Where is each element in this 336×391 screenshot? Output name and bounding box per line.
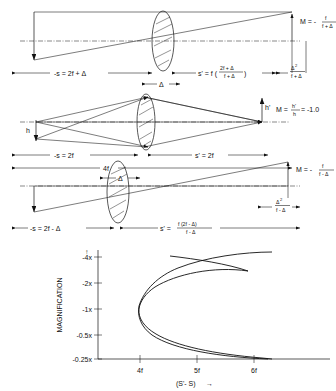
chart-ytick-2: -1x [82, 306, 92, 313]
magnification-chart: -4x -2x -1x -0.5x -0.25x 4f 5f 6f MAGNIF… [56, 249, 330, 389]
ray-lower-out-middle [144, 122, 262, 147]
label-magnification-middle: M = [276, 106, 288, 113]
figure-canvas: -s = 2f + Δ Δ s' = f ( 2f + Δ f + Δ ) Δ … [0, 0, 336, 391]
chart-x-ticks: 4f 5f 6f [137, 355, 257, 374]
label-object-distance-bottom: -s = 2f - Δ [30, 225, 61, 232]
optics-figure: -s = 2f + Δ Δ s' = f ( 2f + Δ f + Δ ) Δ … [0, 0, 336, 391]
chart-curve [139, 256, 272, 359]
label-image-distance-bottom: s' = [160, 225, 171, 232]
label-image-distance-top-tail: ) [244, 70, 246, 78]
chart-xtick-2: 6f [251, 367, 257, 374]
label-magnification-middle-den: h [293, 111, 296, 117]
label-offset-bottom-den: f - Δ [276, 207, 286, 213]
section-middle-diagram: h h' -s = 2f s' = 2f [16, 94, 319, 183]
label-object-height-middle: h [26, 127, 30, 134]
label-total-middle: 4f [103, 165, 109, 172]
chart-ytick-4: -0.25x [73, 356, 93, 363]
label-magnification-bottom: M = - [296, 166, 313, 173]
chart-y-ticks: -4x -2x -1x -0.5x -0.25x [73, 254, 102, 363]
label-image-distance-bottom-num: f (2f - Δ) [178, 221, 197, 227]
label-object-distance-top: -s = 2f + Δ [54, 70, 87, 77]
label-image-distance-top: s' = f ( [198, 70, 218, 78]
label-image-distance-top-num: 2f + Δ [220, 65, 234, 71]
chart-xtick-1: 5f [194, 367, 200, 374]
chart-curve-upper [139, 252, 272, 359]
label-magnification-top-num: f [325, 15, 327, 21]
label-image-distance-bottom-den: f - Δ [186, 229, 196, 235]
chart-y-axis-arrow: → [82, 249, 89, 256]
label-magnification-bottom-num: f [322, 163, 324, 169]
label-magnification-bottom-den: f - Δ [319, 171, 329, 177]
section-top-diagram: -s = 2f + Δ Δ s' = f ( 2f + Δ f + Δ ) Δ … [16, 11, 336, 89]
label-delta-top: Δ [159, 81, 164, 88]
section-bottom-diagram: -s = 2f - Δ s' = f (2f - Δ) f - Δ Δ 2 f … [16, 161, 334, 235]
label-magnification-top: M = - [300, 18, 317, 25]
chief-ray-top [34, 12, 292, 60]
label-image-distance-middle: s' = 2f [195, 152, 214, 159]
chart-xtick-0: 4f [137, 367, 143, 374]
label-magnification-middle-num: h' [292, 103, 296, 109]
label-image-height-middle: h' [265, 104, 270, 111]
chart-ytick-1: -2x [82, 280, 92, 287]
chart-y-axis-label: MAGNIFICATION [56, 277, 63, 332]
chart-x-axis-arrow: → [206, 380, 213, 387]
chief-ray-bottom [34, 162, 288, 212]
chart-ytick-3: -0.5x [76, 332, 92, 339]
label-image-distance-top-den: f + Δ [224, 73, 235, 79]
label-offset-top-den: f + Δ [291, 73, 302, 79]
label-magnification-top-den: f + Δ [322, 23, 333, 29]
label-object-distance-middle: -s = 2f [54, 152, 74, 159]
label-magnification-middle-value: = -1.0 [301, 106, 319, 113]
chart-x-axis-label: (S'- S) [176, 380, 196, 388]
